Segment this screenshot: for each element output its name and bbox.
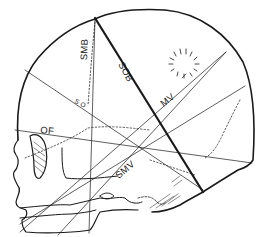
of-label: OF [40, 124, 55, 136]
suture-dotted-3 [205, 100, 240, 158]
sun-symbol [169, 49, 199, 78]
smb-label: SMB [78, 39, 90, 61]
orbit [30, 135, 47, 179]
base-hatching [150, 176, 182, 208]
smv-line [20, 86, 245, 224]
occipital-base [138, 197, 166, 204]
face-profile [13, 140, 138, 233]
cranium-outline [18, 9, 255, 212]
mv-line-2 [58, 52, 226, 235]
sob-line [95, 18, 203, 192]
zygomatic-arch [62, 148, 118, 179]
skull-drawing [0, 0, 269, 237]
skull-diagram: SMB SOB MV OF SMV S O [0, 0, 269, 237]
maxilla [20, 197, 142, 208]
